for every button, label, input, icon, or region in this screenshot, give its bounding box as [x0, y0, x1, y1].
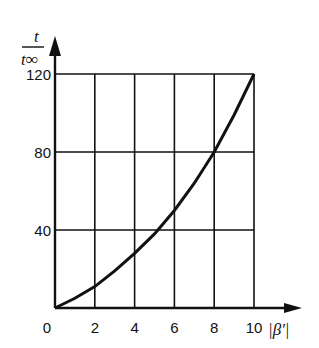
grid-lines — [55, 74, 254, 308]
y-axis-label-numerator: t — [34, 27, 40, 46]
chart: 0246810 4080120 |β′| t t∞ — [0, 0, 319, 348]
data-curve — [55, 74, 254, 308]
x-tick-labels: 0246810 — [43, 319, 263, 336]
x-tick-label: 2 — [91, 319, 99, 336]
y-axis-label-denominator: t∞ — [21, 50, 38, 69]
x-tick-label: 0 — [43, 319, 51, 336]
y-tick-labels: 4080120 — [26, 66, 51, 239]
x-tick-label: 8 — [210, 319, 218, 336]
axes — [49, 36, 302, 313]
x-tick-label: 4 — [130, 319, 138, 336]
x-tick-label: 10 — [246, 319, 263, 336]
y-tick-label: 40 — [34, 222, 51, 239]
y-tick-label: 80 — [34, 144, 51, 161]
x-axis-label: |β′| — [268, 320, 290, 339]
x-tick-label: 6 — [170, 319, 178, 336]
